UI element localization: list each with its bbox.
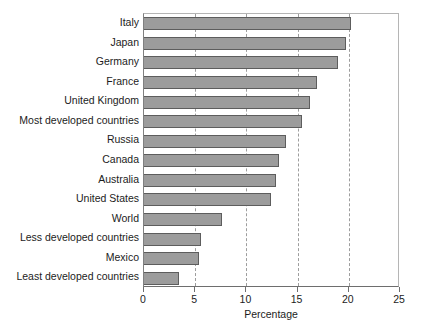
x-tick-label: 25 [393, 293, 405, 305]
x-tick-15 [297, 287, 298, 292]
x-tick-5 [194, 287, 195, 292]
bar-row [144, 249, 398, 269]
bar [144, 233, 201, 246]
x-tick-label: 15 [291, 293, 303, 305]
bar [144, 272, 179, 285]
x-tick-label: 10 [240, 293, 252, 305]
x-tick-label: 5 [191, 293, 197, 305]
x-axis: 0510152025 [143, 287, 399, 307]
category-label: United States [76, 189, 139, 209]
bar [144, 252, 199, 265]
category-label: Russia [107, 130, 139, 150]
bar-row [144, 151, 398, 171]
category-label: Germany [96, 52, 139, 72]
bar-row [144, 268, 398, 288]
bar [144, 76, 317, 89]
bar [144, 37, 346, 50]
bar-row [144, 171, 398, 191]
bar-row [144, 210, 398, 230]
plot-area [143, 13, 399, 287]
x-tick-25 [399, 287, 400, 292]
category-label: United Kingdom [64, 91, 139, 111]
bar-row [144, 131, 398, 151]
bar [144, 135, 286, 148]
bar-row [144, 190, 398, 210]
category-label: Least developed countries [16, 267, 139, 287]
category-label: Australia [98, 170, 139, 190]
category-axis-labels: ItalyJapanGermanyFranceUnited KingdomMos… [0, 13, 139, 287]
bar-row [144, 112, 398, 132]
x-tick-label: 0 [140, 293, 146, 305]
bar [144, 213, 222, 226]
bar [144, 154, 279, 167]
category-label: Less developed countries [20, 228, 139, 248]
x-tick-label: 20 [342, 293, 354, 305]
bar [144, 96, 310, 109]
category-label: World [112, 209, 139, 229]
bar-row [144, 92, 398, 112]
category-label: Japan [110, 33, 139, 53]
bar [144, 56, 338, 69]
bar-row [144, 53, 398, 73]
x-tick-10 [245, 287, 246, 292]
bar-row [144, 229, 398, 249]
bar-row [144, 73, 398, 93]
bar-row [144, 14, 398, 34]
bar-chart: ItalyJapanGermanyFranceUnited KingdomMos… [0, 0, 425, 333]
bar [144, 193, 271, 206]
bar [144, 174, 276, 187]
bar [144, 17, 351, 30]
category-label: France [106, 72, 139, 92]
x-tick-20 [348, 287, 349, 292]
category-label: Mexico [106, 248, 139, 268]
x-axis-title: Percentage [143, 308, 399, 320]
category-label: Most developed countries [19, 111, 139, 131]
category-label: Canada [102, 150, 139, 170]
bar [144, 115, 302, 128]
bar-series [144, 14, 398, 286]
bar-row [144, 34, 398, 54]
x-tick-0 [143, 287, 144, 292]
category-label: Italy [120, 13, 139, 33]
